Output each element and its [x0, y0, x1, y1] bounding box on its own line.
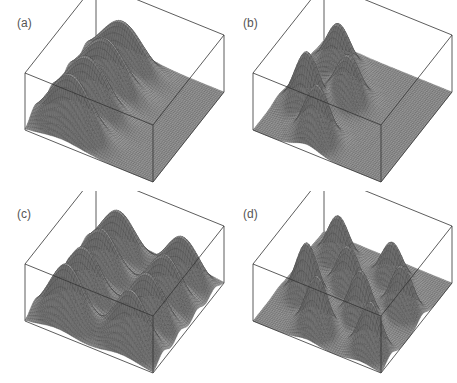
surface-mesh — [25, 210, 224, 372]
panel-label-d: (d) — [243, 207, 258, 221]
panel-c: (c) — [0, 191, 228, 381]
surface-plot-a — [0, 0, 228, 190]
surface-mesh — [253, 216, 452, 373]
surface-mesh — [25, 20, 224, 182]
surface-mesh — [253, 24, 452, 183]
surface-plot-c — [0, 191, 228, 381]
panel-a: (a) — [0, 0, 228, 190]
panel-label-c: (c) — [17, 207, 31, 221]
surface-plot-b — [228, 0, 456, 190]
panel-label-b: (b) — [243, 16, 258, 30]
panel-d: (d) — [228, 191, 456, 381]
panel-label-a: (a) — [17, 16, 32, 30]
panel-b: (b) — [228, 0, 456, 190]
surface-plot-d — [228, 191, 456, 381]
